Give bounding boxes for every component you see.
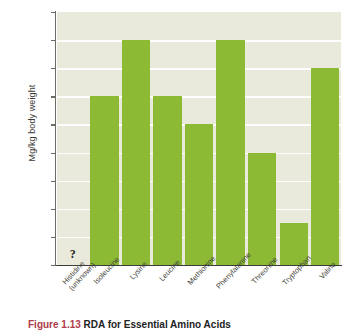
figure-caption-text: RDA for Essential Amino Acids	[84, 319, 231, 330]
x-slot-valine: Valine	[310, 266, 342, 328]
y-tickmark-6	[51, 181, 56, 182]
y-tickmark-14	[51, 68, 56, 69]
y-tickmark-4	[51, 209, 56, 210]
y-tickmark-2	[51, 237, 56, 238]
x-slot-tryptophan: Tryptophan	[278, 266, 310, 328]
y-tickmark-16	[51, 40, 56, 41]
y-tickmark-8	[51, 153, 56, 154]
x-slot-threonine: Threonine	[246, 266, 278, 328]
y-tickmark-0	[51, 265, 56, 266]
y-tickmark-18	[51, 12, 56, 13]
y-tickmark-12	[51, 96, 56, 97]
figure-caption: Figure 1.13 RDA for Essential Amino Acid…	[28, 319, 231, 330]
figure-number: Figure 1.13	[28, 319, 81, 330]
y-tickmark-10	[51, 124, 56, 125]
